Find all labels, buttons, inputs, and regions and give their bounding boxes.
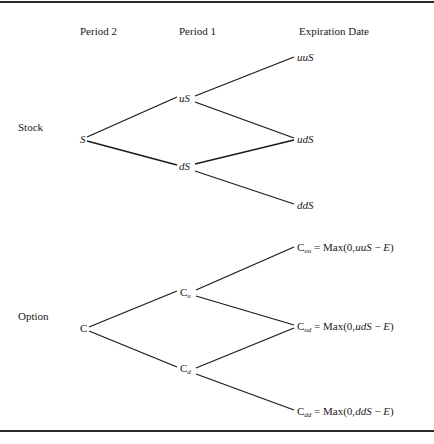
edge-cu-cud [196,296,294,325]
edge-us-uds [195,102,294,138]
stock-node-dd: ddS [297,199,314,211]
edge-ds-dds [195,171,294,204]
edge-us-uus [195,57,294,96]
stock-node-uu: uuS [297,51,314,63]
stock-node-up: uS [179,92,190,104]
stock-node-root: S [80,133,86,145]
edge-cu-cuu [196,247,294,290]
row-label-stock: Stock [18,121,43,133]
option-node-ud: Cud = Max(0,udS − E) [297,320,394,336]
option-node-up: Cu [180,286,191,302]
stock-node-ud: udS [297,133,314,145]
option-node-dd: Cdd = Max(0,ddS − E) [297,405,394,421]
stock-node-down: dS [179,160,190,172]
edge-ds-uds [195,140,294,164]
option-node-root: C [80,322,87,334]
option-node-uu: Cuu = Max(0,uuS − E) [297,241,394,257]
row-label-option: Option [18,310,49,322]
edge-s-ds [87,141,177,165]
edge-s-us [87,97,177,137]
header-period-2: Period 2 [80,25,117,37]
edge-c-cd [89,331,177,367]
header-expiration-date: Expiration Date [299,25,369,37]
edge-cd-cdd [196,374,294,410]
option-node-down: Cd [180,362,191,378]
header-period-1: Period 1 [179,25,216,37]
tree-edges [0,0,434,444]
edge-cd-cud [196,328,294,368]
edge-c-cu [89,291,177,327]
